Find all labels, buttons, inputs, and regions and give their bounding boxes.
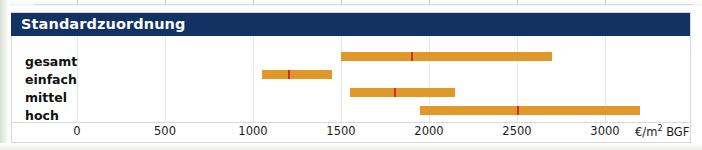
plot-area: 050010001500200025003000€/m2 BGFgesamtei… xyxy=(11,36,690,142)
gridline xyxy=(341,36,342,122)
median-marker-gesamt xyxy=(411,52,413,61)
x-axis-line xyxy=(11,122,690,123)
scan-edge-bottom xyxy=(0,143,702,150)
range-bar-mittel xyxy=(350,88,456,97)
category-label-mittel: mittel xyxy=(25,90,67,105)
gridline xyxy=(165,36,166,122)
top-tick xyxy=(429,0,430,5)
category-label-einfach: einfach xyxy=(25,72,77,87)
page-title: Standardzuordnung xyxy=(21,16,185,32)
scan-edge-left xyxy=(0,0,9,150)
chart-title-bar: Standardzuordnung xyxy=(11,13,690,36)
scan-edge-top xyxy=(0,0,702,6)
x-tick-label: 2500 xyxy=(502,124,531,138)
range-bar-gesamt xyxy=(341,52,552,61)
category-label-gesamt: gesamt xyxy=(25,54,77,69)
x-tick-label: 500 xyxy=(154,124,176,138)
x-tick-label: 1000 xyxy=(238,124,267,138)
range-bar-einfach xyxy=(262,70,332,79)
x-tick-label: 0 xyxy=(73,124,80,138)
category-label-hoch: hoch xyxy=(25,108,59,123)
x-tick-label: 3000 xyxy=(590,124,619,138)
top-tick xyxy=(605,0,606,5)
range-bar-hoch xyxy=(420,106,640,115)
top-rule xyxy=(34,4,694,5)
gridline xyxy=(253,36,254,122)
median-marker-mittel xyxy=(394,88,396,97)
top-tick xyxy=(165,0,166,5)
gridline xyxy=(77,36,78,122)
top-tick xyxy=(77,0,78,5)
top-tick xyxy=(253,0,254,5)
x-axis-unit-label: €/m2 BGF xyxy=(635,124,689,139)
x-tick-label: 2000 xyxy=(414,124,443,138)
median-marker-einfach xyxy=(288,70,290,79)
median-marker-hoch xyxy=(517,106,519,115)
top-tick xyxy=(517,0,518,5)
chart-figure: Standardzuordnung 0500100015002000250030… xyxy=(0,0,702,150)
x-tick-label: 1500 xyxy=(326,124,355,138)
top-tick xyxy=(341,0,342,5)
